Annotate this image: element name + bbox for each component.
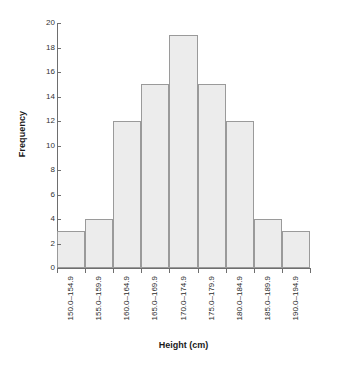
x-axis-tick-label-text: 170.0–174.9 bbox=[180, 276, 188, 321]
y-axis-tick-label: 14 bbox=[30, 93, 55, 101]
histogram-bar bbox=[169, 35, 197, 268]
x-axis-tick-mark bbox=[57, 269, 58, 273]
x-axis-tick-mark bbox=[85, 269, 86, 273]
y-axis-tick-mark bbox=[57, 72, 61, 73]
x-axis-line bbox=[57, 268, 311, 269]
y-axis-title-text: Frequency bbox=[17, 111, 27, 157]
y-axis-tick-label: 0 bbox=[30, 264, 55, 272]
y-axis-tick-label: 2 bbox=[30, 240, 55, 248]
x-axis-tick-label: 150.0–154.9 bbox=[64, 276, 78, 332]
x-axis-tick-mark bbox=[254, 269, 255, 273]
x-axis-tick-label-text: 155.0–159.9 bbox=[95, 276, 103, 321]
x-axis-title: Height (cm) bbox=[57, 340, 310, 350]
y-axis-tick-label: 8 bbox=[30, 166, 55, 174]
y-axis-tick-label: 18 bbox=[30, 44, 55, 52]
x-axis-tick-label: 180.0–184.9 bbox=[233, 276, 247, 332]
histogram-bar bbox=[141, 84, 169, 268]
y-axis-tick-labels: 02468101214161820 bbox=[30, 0, 55, 365]
y-axis-tick-mark bbox=[57, 244, 61, 245]
y-axis-tick-label: 10 bbox=[30, 142, 55, 150]
x-axis-tick-mark bbox=[198, 269, 199, 273]
x-axis-tick-label: 170.0–174.9 bbox=[177, 276, 191, 332]
x-axis-tick-label: 155.0–159.9 bbox=[92, 276, 106, 332]
y-axis-tick-mark bbox=[57, 195, 61, 196]
x-axis-tick-label-text: 160.0–164.9 bbox=[123, 276, 131, 321]
plot-area bbox=[57, 23, 310, 268]
y-axis-tick-mark bbox=[57, 146, 61, 147]
histogram-bar bbox=[85, 219, 113, 268]
y-axis-tick-label: 16 bbox=[30, 68, 55, 76]
histogram-bar bbox=[254, 219, 282, 268]
y-axis-tick-mark bbox=[57, 170, 61, 171]
y-axis-tick-mark bbox=[57, 23, 61, 24]
y-axis-tick-label: 12 bbox=[30, 117, 55, 125]
x-axis-tick-label: 175.0–179.9 bbox=[205, 276, 219, 332]
histogram-bar bbox=[57, 231, 85, 268]
x-axis-tick-mark bbox=[310, 269, 311, 273]
x-axis-tick-mark bbox=[113, 269, 114, 273]
x-axis-tick-label-text: 175.0–179.9 bbox=[208, 276, 216, 321]
x-axis-tick-mark bbox=[141, 269, 142, 273]
y-axis-title: Frequency bbox=[14, 0, 30, 268]
x-axis-tick-label-text: 180.0–184.9 bbox=[236, 276, 244, 321]
histogram-figure: Frequency 02468101214161820 Height (cm) … bbox=[0, 0, 337, 365]
histogram-bar bbox=[198, 84, 226, 268]
x-axis-tick-label-text: 165.0–169.9 bbox=[151, 276, 159, 321]
histogram-bar bbox=[113, 121, 141, 268]
y-axis-tick-mark bbox=[57, 219, 61, 220]
x-axis-tick-label-text: 150.0–154.9 bbox=[67, 276, 75, 321]
x-axis-tick-label-text: 190.0–194.9 bbox=[292, 276, 300, 321]
histogram-bar bbox=[226, 121, 254, 268]
y-axis-tick-mark bbox=[57, 121, 61, 122]
x-axis-tick-label: 160.0–164.9 bbox=[120, 276, 134, 332]
x-axis-tick-mark bbox=[282, 269, 283, 273]
x-axis-tick-label: 165.0–169.9 bbox=[148, 276, 162, 332]
x-axis-tick-label: 190.0–194.9 bbox=[289, 276, 303, 332]
x-axis-tick-mark bbox=[226, 269, 227, 273]
y-axis-tick-mark bbox=[57, 48, 61, 49]
y-axis-tick-mark bbox=[57, 97, 61, 98]
x-axis-tick-mark bbox=[169, 269, 170, 273]
y-axis-tick-label: 20 bbox=[30, 19, 55, 27]
x-axis-tick-label-text: 185.0–189.9 bbox=[264, 276, 272, 321]
y-axis-tick-label: 6 bbox=[30, 191, 55, 199]
x-axis-tick-label: 185.0–189.9 bbox=[261, 276, 275, 332]
histogram-bar bbox=[282, 231, 310, 268]
y-axis-tick-label: 4 bbox=[30, 215, 55, 223]
